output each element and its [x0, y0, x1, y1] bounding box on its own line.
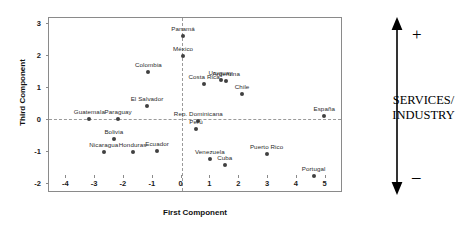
x-tick-label: 1 — [207, 179, 211, 188]
data-point-label: Cuba — [217, 155, 232, 161]
x-tick — [209, 175, 210, 178]
data-point-label: Ecuador — [145, 141, 169, 147]
y-axis-title: Third Component — [18, 33, 27, 153]
data-point-label: Panamá — [171, 26, 195, 32]
y-tick-label: -1 — [34, 147, 41, 156]
data-point-label: México — [173, 45, 193, 51]
y-tick — [46, 151, 49, 152]
chart-area: Third Component -2-10123 PanamáMéxicoCol… — [0, 0, 360, 229]
annotation-line-1: SERVICES/ — [372, 93, 475, 108]
data-point — [202, 82, 206, 86]
y-tick-label: 2 — [37, 50, 41, 59]
x-tick-label: 2 — [236, 179, 240, 188]
annotation-text: SERVICES/ INDUSTRY — [372, 93, 475, 124]
data-point-label: Paraguay — [105, 109, 132, 115]
x-tick — [123, 175, 124, 178]
x-tick-label: 5 — [323, 179, 327, 188]
y-tick — [46, 23, 49, 24]
y-tick-label: 3 — [37, 18, 41, 27]
plus-sign-label: + — [412, 26, 422, 43]
x-tick-label: 4 — [294, 179, 298, 188]
data-point-label: Honduras — [119, 142, 147, 148]
x-tick — [238, 175, 239, 178]
data-point-label: Costa Rica — [188, 74, 219, 80]
data-point-label: Chile — [235, 84, 250, 90]
y-axis-ticks: -2-10123 — [49, 18, 341, 191]
x-tick — [152, 175, 153, 178]
plot-frame: -2-10123 PanamáMéxicoColombiaUruguayArge… — [48, 17, 342, 192]
x-tick-label: -1 — [148, 179, 155, 188]
y-tick-label: 0 — [37, 115, 41, 124]
y-tick — [46, 119, 49, 120]
data-point-label: El Salvador — [131, 95, 164, 101]
minus-sign-label: – — [412, 168, 421, 185]
x-axis-title: First Component — [48, 208, 342, 217]
data-point — [131, 150, 135, 154]
data-point — [223, 163, 227, 167]
x-tick — [325, 175, 326, 178]
data-point — [102, 150, 106, 154]
x-tick — [296, 175, 297, 178]
data-point — [145, 104, 149, 108]
x-tick-label: 0 — [178, 179, 182, 188]
x-axis-ticks: -4-3-2-1012345 — [48, 175, 342, 205]
y-tick-label: -2 — [34, 179, 41, 188]
data-point-label: Guatemala — [74, 108, 105, 114]
scatter-plot-figure: Third Component -2-10123 PanamáMéxicoCol… — [0, 0, 475, 229]
x-tick — [267, 175, 268, 178]
x-tick-label: -3 — [91, 179, 98, 188]
data-point — [181, 54, 185, 58]
data-point — [265, 152, 269, 156]
y-tick — [46, 87, 49, 88]
data-point-label: Puerto Rico — [250, 144, 283, 150]
y-tick-label: 1 — [37, 83, 41, 92]
data-point-label: Bolivia — [104, 129, 123, 135]
data-point-label: Perú — [189, 119, 202, 125]
services-industry-annotation: + – SERVICES/ INDUSTRY — [372, 0, 475, 229]
data-point-label: Colombia — [135, 62, 162, 68]
x-tick — [65, 175, 66, 178]
data-point — [194, 127, 198, 131]
data-point-label: Portugal — [302, 166, 326, 172]
x-tick — [181, 175, 182, 178]
x-tick-label: -2 — [120, 179, 127, 188]
annotation-line-2: INDUSTRY — [372, 108, 475, 123]
data-point-label: Rep. Dominicana — [174, 111, 223, 117]
data-point — [87, 117, 91, 121]
x-tick — [94, 175, 95, 178]
x-tick-label: -4 — [62, 179, 69, 188]
y-tick — [46, 55, 49, 56]
data-point-label: Nicaragua — [89, 142, 118, 148]
data-point-label: España — [313, 106, 335, 112]
x-tick-label: 3 — [265, 179, 269, 188]
